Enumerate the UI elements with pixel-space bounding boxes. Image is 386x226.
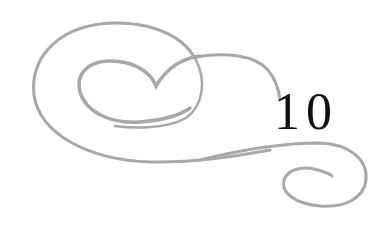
chapter-heading-ornament: 10 xyxy=(0,0,386,226)
chapter-number: 10 xyxy=(274,86,338,138)
